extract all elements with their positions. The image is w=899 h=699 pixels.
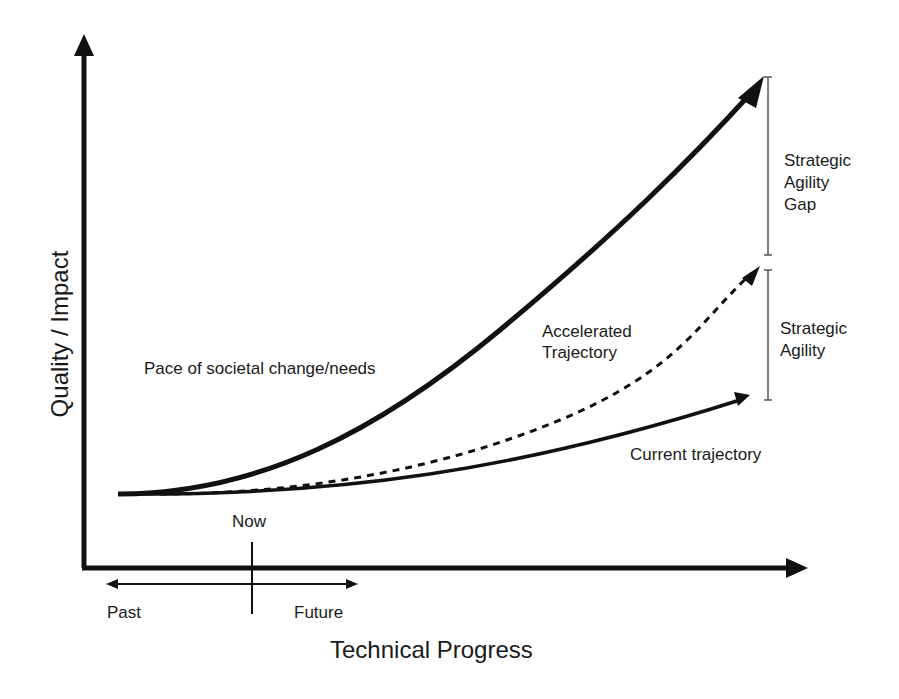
current-trajectory-label: Current trajectory — [630, 444, 761, 465]
y-axis — [74, 34, 94, 568]
agility-bracket — [764, 270, 772, 400]
gap-label-line1: Strategic — [784, 150, 851, 171]
accelerated-arrow-icon — [742, 266, 760, 286]
gap-label-line2: Agility — [784, 172, 829, 193]
x-axis-arrow-icon — [786, 558, 808, 578]
accelerated-label-line2: Trajectory — [542, 342, 617, 363]
past-label: Past — [107, 602, 141, 623]
accelerated-label-line1: Accelerated — [542, 321, 632, 342]
past-arrow-icon — [106, 579, 118, 589]
x-axis — [82, 558, 808, 578]
current-arrow-icon — [734, 392, 750, 406]
now-label: Now — [232, 511, 266, 532]
societal-change-curve — [118, 92, 752, 494]
future-arrow-icon — [346, 579, 358, 589]
gap-label-line3: Gap — [784, 194, 816, 215]
diagram-canvas — [0, 0, 899, 699]
agility-label-line2: Agility — [780, 340, 825, 361]
societal-change-label: Pace of societal change/needs — [144, 358, 376, 379]
future-label: Future — [294, 602, 343, 623]
agility-label-line1: Strategic — [780, 318, 847, 339]
y-axis-arrow-icon — [74, 34, 94, 56]
x-axis-label: Technical Progress — [330, 636, 533, 664]
gap-bracket — [764, 77, 772, 255]
y-axis-label: Quality / Impact — [46, 234, 74, 434]
